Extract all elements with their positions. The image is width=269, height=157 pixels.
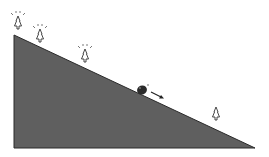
tree-icon <box>33 24 47 42</box>
tree-icon <box>11 11 25 29</box>
slope <box>14 35 255 148</box>
diagram-canvas <box>0 0 269 157</box>
tree-icon <box>78 44 92 62</box>
motion-arrow-icon <box>148 84 164 99</box>
slope-diagram <box>0 0 269 157</box>
tree-icon <box>213 107 220 120</box>
